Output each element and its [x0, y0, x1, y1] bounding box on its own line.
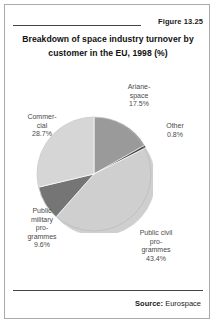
pie-label-public-military-line3: pro-	[13, 224, 71, 233]
pie-label-public-civil-line2: pro-	[125, 238, 187, 247]
pie-label-commercial-line2: cial	[15, 122, 69, 131]
pie-label-commercial-value: 28.7%	[15, 130, 69, 139]
pie-label-public-civil-value: 43.4%	[125, 255, 187, 264]
header-rule	[13, 25, 141, 26]
figure-panel: Figure 13.25 Breakdown of space industry…	[4, 4, 210, 319]
pie-label-public-military-value: 9.6%	[13, 241, 71, 250]
pie-label-public-military-line4: grammes	[13, 233, 71, 242]
pie-label-arianespace-value: 17.5%	[113, 100, 165, 109]
pie-label-commercial-line1: Commer-	[15, 113, 69, 122]
source-value: Eurospace	[165, 299, 201, 308]
figure-number: Figure 13.25	[158, 16, 203, 27]
figure-header: Figure 13.25	[13, 16, 203, 28]
pie-label-arianespace-line2: space	[113, 92, 165, 101]
title-line-1: Breakdown of space industry turnover by	[15, 33, 201, 47]
pie-label-public-civil-line1: Public civil	[125, 229, 187, 238]
pie-chart: Ariane- space 17.5% Other 0.8% Public ci…	[5, 65, 209, 290]
pie-label-arianespace-line1: Ariane-	[113, 83, 165, 92]
pie-label-arianespace: Ariane- space 17.5%	[113, 83, 165, 109]
pie-label-public-military: Public military pro- grammes 9.6%	[13, 207, 71, 250]
page-title: Breakdown of space industry turnover by …	[15, 33, 201, 60]
source-note: Source: Eurospace	[135, 298, 201, 309]
pie-label-other-value: 0.8%	[153, 131, 197, 140]
pie-label-other-line1: Other	[153, 122, 197, 131]
pie-label-commercial: Commer- cial 28.7%	[15, 113, 69, 139]
pie-label-other: Other 0.8%	[153, 122, 197, 139]
footer-rule	[13, 290, 203, 291]
pie-label-public-civil-line3: grammes	[125, 246, 187, 255]
title-line-2: customer in the EU, 1998 (%)	[15, 47, 201, 61]
pie-label-public-civil: Public civil pro- grammes 43.4%	[125, 229, 187, 263]
pie-label-public-military-line1: Public	[13, 207, 71, 216]
pie-label-public-military-line2: military	[13, 216, 71, 225]
source-label: Source:	[135, 299, 163, 308]
